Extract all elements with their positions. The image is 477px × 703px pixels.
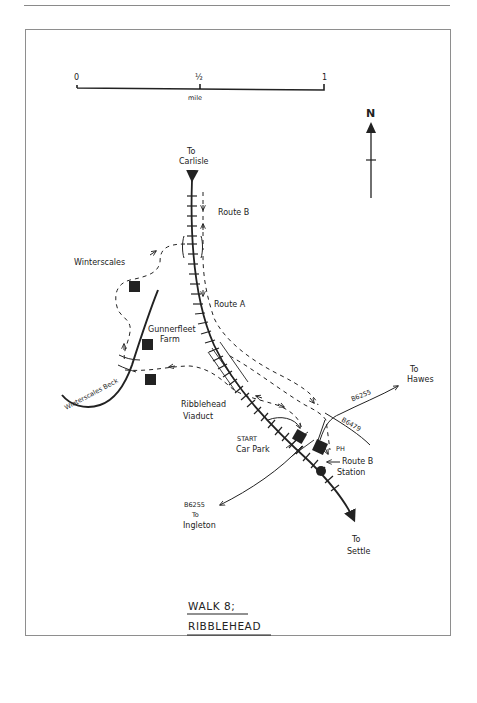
buildings: [129, 281, 328, 476]
label-route-b-north: Route B: [218, 208, 249, 217]
label-car-park: Car Park: [236, 445, 270, 454]
label-to-ingleton-1: To: [191, 511, 199, 519]
scale-unit: mile: [188, 94, 202, 102]
winterscales-building-icon: [129, 281, 140, 292]
north-arrow: N: [366, 107, 376, 198]
title-line-1: WALK 8;: [188, 600, 235, 612]
station-icon: [316, 466, 326, 476]
farm-building-icon: [145, 374, 156, 385]
gunnerfleet-farm-building-icon: [142, 339, 153, 350]
label-winterscales: Winterscales: [74, 258, 125, 267]
scale-tick-half: ½: [195, 73, 203, 82]
label-start: START: [237, 435, 257, 443]
label-viaduct-1: Ribblehead: [181, 400, 226, 409]
label-station: Station: [337, 468, 365, 477]
north-arrow-icon: [366, 122, 376, 133]
label-ph: PH: [336, 445, 345, 453]
label-gunnerfleet-2: Farm: [160, 335, 180, 344]
title-line-2: RIBBLEHEAD: [188, 620, 261, 632]
scale-tick-1: 1: [322, 73, 327, 82]
label-route-a: Route A: [214, 300, 246, 309]
label-b6255-ingleton: B6255: [184, 501, 205, 509]
north-label: N: [366, 107, 375, 120]
label-to-carlisle-2: Carlisle: [179, 157, 209, 166]
label-to-settle-2: Settle: [347, 547, 370, 556]
pub-building-icon: [312, 439, 328, 455]
label-viaduct-2: Viaduct: [183, 412, 213, 421]
label-b6255-hawes: B6255: [350, 388, 372, 403]
label-to-hawes-2: Hawes: [407, 375, 434, 384]
map-title: WALK 8; RIBBLEHEAD: [187, 600, 271, 635]
railway-line: [183, 180, 355, 520]
label-gunnerfleet-1: Gunnerfleet: [148, 325, 196, 334]
road-b6255-ingleton: [220, 446, 302, 505]
label-b6479: B6479: [340, 416, 362, 433]
label-to-carlisle-1: To: [186, 147, 196, 156]
label-to-hawes-1: To: [409, 365, 419, 374]
scale-tick-0: 0: [74, 73, 79, 82]
label-to-ingleton-2: Ingleton: [183, 521, 216, 530]
walk-map: 0 ½ 1 mile N: [0, 0, 477, 703]
scale-bar: 0 ½ 1 mile: [74, 73, 327, 102]
label-route-b-station: Route B: [342, 457, 373, 466]
label-to-settle-1: To: [351, 535, 361, 544]
